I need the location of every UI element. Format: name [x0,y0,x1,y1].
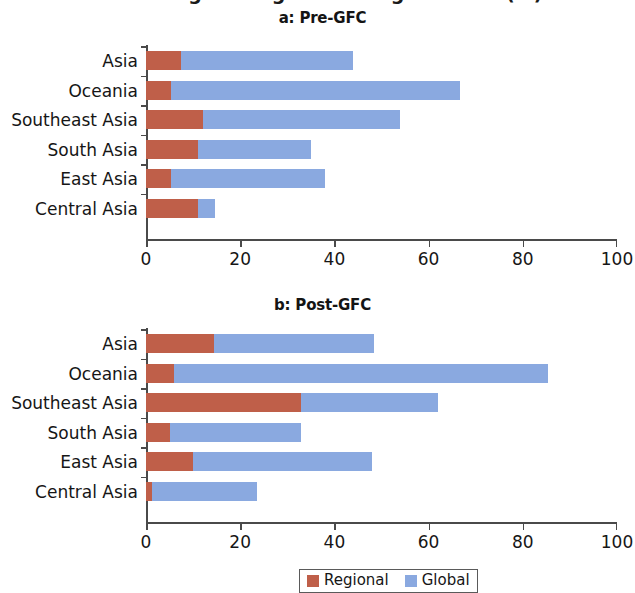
x-axis-tick-label-60: 60 [399,251,459,268]
cropped-super-title: Percentage of regional and global FDI (%… [0,0,635,9]
chart-x-axis [146,239,617,241]
chart-x-axis [146,522,617,524]
chart-panel-a: a: Pre-GFC AsiaOceaniaSoutheast AsiaSout… [0,9,635,269]
bar-east-asia[interactable] [146,452,372,471]
bar-segment-regional[interactable] [146,334,214,353]
bar-southeast-asia[interactable] [146,110,400,129]
bar-segment-regional[interactable] [146,110,203,129]
y-axis-tick [141,359,146,361]
x-axis-tick-label-100: 100 [587,251,635,268]
y-axis-label-east-asia: East Asia [0,454,138,471]
y-axis-tick [141,164,146,166]
y-axis-label-east-asia: East Asia [0,171,138,188]
bar-oceania[interactable] [146,364,548,383]
y-axis-label-asia: Asia [0,53,138,70]
y-axis-tick [141,76,146,78]
bar-central-asia[interactable] [146,482,257,501]
y-axis-label-south-asia: South Asia [0,425,138,442]
y-axis-tick [141,46,146,48]
x-axis-tick-label-100: 100 [587,534,635,551]
x-axis-tick-label-80: 80 [493,534,553,551]
cropped-super-title-text: Percentage of regional and global FDI (%… [0,0,635,4]
x-axis-tick [429,524,431,530]
y-axis-label-asia: Asia [0,336,138,353]
y-axis-tick [141,105,146,107]
bar-segment-global[interactable] [181,51,353,70]
bar-asia[interactable] [146,51,353,70]
bar-segment-regional[interactable] [146,452,193,471]
bar-segment-regional[interactable] [146,364,174,383]
y-axis-label-south-asia: South Asia [0,142,138,159]
bar-oceania[interactable] [146,81,460,100]
x-axis-tick [146,524,148,530]
x-axis-tick-label-20: 20 [210,251,270,268]
y-axis-tick [141,477,146,479]
y-axis-label-southeast-asia: Southeast Asia [0,395,138,412]
bar-segment-global[interactable] [198,140,311,159]
bar-segment-global[interactable] [193,452,372,471]
bar-east-asia[interactable] [146,169,325,188]
bar-segment-global[interactable] [170,423,302,442]
x-axis-tick-label-0: 0 [116,251,176,268]
figure-container: Percentage of regional and global FDI (%… [0,0,635,593]
y-axis-tick [141,194,146,196]
bar-south-asia[interactable] [146,140,311,159]
y-axis-label-southeast-asia: Southeast Asia [0,112,138,129]
legend-label-regional: Regional [324,573,389,588]
y-axis-tick [141,135,146,137]
bar-segment-regional[interactable] [146,140,198,159]
x-axis-tick [523,524,525,530]
x-axis-tick-label-80: 80 [493,251,553,268]
bar-southeast-asia[interactable] [146,393,438,412]
y-axis-label-oceania: Oceania [0,83,138,100]
bar-segment-global[interactable] [203,110,401,129]
bar-segment-regional[interactable] [146,393,301,412]
x-axis-tick [146,241,148,247]
bar-segment-regional[interactable] [146,169,171,188]
y-axis-tick [141,418,146,420]
x-axis-tick-label-0: 0 [116,534,176,551]
bar-segment-global[interactable] [171,169,325,188]
y-axis-tick [141,447,146,449]
y-axis-label-central-asia: Central Asia [0,484,138,501]
x-axis-tick [616,241,618,247]
y-axis-label-central-asia: Central Asia [0,201,138,218]
x-axis-tick [523,241,525,247]
bar-segment-global[interactable] [174,364,548,383]
bar-segment-regional[interactable] [146,81,171,100]
chart-a-plot-area: AsiaOceaniaSoutheast AsiaSouth AsiaEast … [0,33,635,269]
y-axis-tick [141,388,146,390]
x-axis-tick-label-60: 60 [399,534,459,551]
legend-item-regional[interactable]: Regional [307,573,389,588]
x-axis-tick-label-40: 40 [304,534,364,551]
bar-central-asia[interactable] [146,199,215,218]
y-axis-label-oceania: Oceania [0,366,138,383]
legend-label-global: Global [422,573,470,588]
x-axis-tick-label-40: 40 [304,251,364,268]
bar-segment-global[interactable] [214,334,375,353]
legend-item-global[interactable]: Global [405,573,470,588]
x-axis-tick [616,524,618,530]
x-axis-tick [334,241,336,247]
x-axis-tick [429,241,431,247]
bar-segment-regional[interactable] [146,199,198,218]
chart-b-plot-area: AsiaOceaniaSoutheast AsiaSouth AsiaEast … [0,320,635,546]
bar-segment-regional[interactable] [146,51,181,70]
bar-segment-global[interactable] [301,393,438,412]
bar-asia[interactable] [146,334,374,353]
bar-segment-global[interactable] [171,81,459,100]
y-axis-tick [141,329,146,331]
bar-segment-global[interactable] [198,199,215,218]
chart-a-title: a: Pre-GFC [0,9,635,27]
x-axis-tick [334,524,336,530]
bar-segment-global[interactable] [152,482,257,501]
x-axis-tick [240,524,242,530]
chart-panel-b: b: Post-GFC AsiaOceaniaSoutheast AsiaSou… [0,296,635,546]
chart-b-title: b: Post-GFC [0,296,635,314]
legend-swatch-regional [307,575,319,587]
chart-legend: RegionalGlobal [299,569,478,593]
bar-segment-regional[interactable] [146,423,170,442]
legend-swatch-global [405,575,417,587]
bar-south-asia[interactable] [146,423,301,442]
x-axis-tick [240,241,242,247]
